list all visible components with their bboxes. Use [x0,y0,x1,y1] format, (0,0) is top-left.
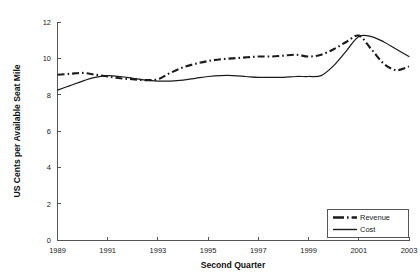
x-tick-label-1997: 1997 [250,246,267,255]
y-axis-tick-labels: 0 2 4 6 8 10 12 [43,18,51,245]
x-tick-label-1995: 1995 [200,246,217,255]
x-tick-label-2003: 2003 [401,246,418,255]
x-tick-label-2001: 2001 [350,246,367,255]
x-tick-label-1989: 1989 [49,246,66,255]
line-chart: 0 2 4 6 8 10 12 1989 1991 1993 1995 1997 [0,0,420,278]
y-axis-ticks [58,22,62,240]
y-tick-label-10: 10 [43,54,51,63]
x-axis-title: Second Quarter [201,260,266,270]
y-axis-title: US Cents per Available Seat Mile [12,64,22,197]
x-axis-tick-labels: 1989 1991 1993 1995 1997 1999 2001 2003 [49,246,417,255]
legend-label-cost: Cost [360,225,376,234]
y-tick-label-6: 6 [47,127,51,136]
legend-label-revenue: Revenue [360,213,390,222]
x-tick-label-1999: 1999 [300,246,317,255]
series-line-revenue [58,35,410,80]
y-tick-label-12: 12 [43,18,51,27]
y-tick-label-4: 4 [47,163,51,172]
y-tick-label-0: 0 [47,236,51,245]
chart-figure: 0 2 4 6 8 10 12 1989 1991 1993 1995 1997 [0,0,420,278]
y-tick-label-2: 2 [47,200,51,209]
y-tick-label-8: 8 [47,91,51,100]
x-tick-label-1993: 1993 [150,246,167,255]
chart-legend: Revenue Cost [327,210,408,238]
series-line-cost [58,35,410,90]
x-tick-label-1991: 1991 [99,246,116,255]
